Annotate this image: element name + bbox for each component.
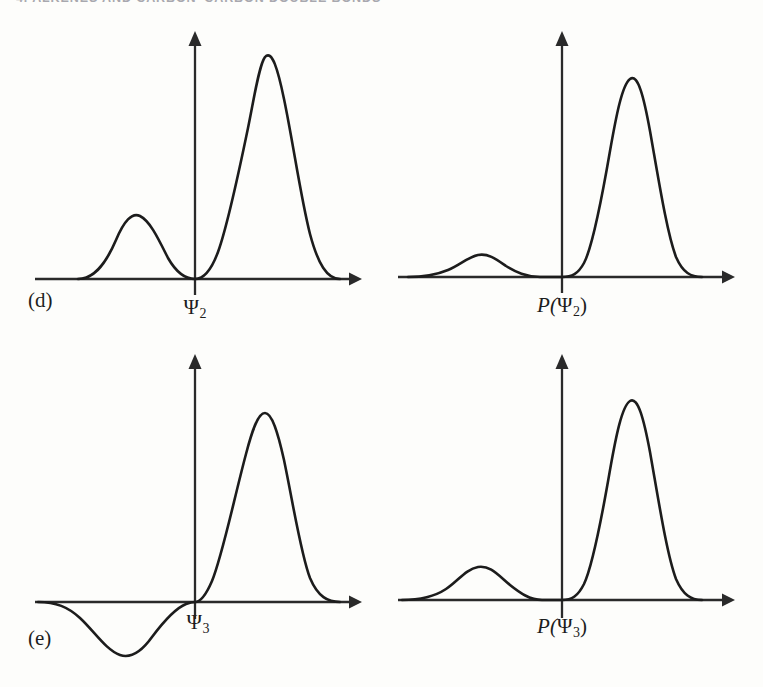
panel-psi3-label-subscript: 3 bbox=[202, 621, 210, 636]
panel-psi2-label-subscript: 2 bbox=[199, 306, 207, 321]
panel-p-psi2-label-subscript: 2 bbox=[572, 304, 580, 319]
panel-p-psi2-label-prefix: P( bbox=[537, 293, 557, 317]
panel-psi2: Ψ2 bbox=[0, 0, 380, 300]
x-axis-arrowhead bbox=[722, 271, 735, 284]
panel-p-psi2: P(Ψ2) bbox=[380, 0, 763, 300]
curve-p-psi2 bbox=[408, 78, 702, 277]
y-axis-arrowhead bbox=[189, 354, 202, 369]
y-axis-arrowhead bbox=[556, 31, 569, 46]
panel-p-psi3-label-prefix: P( bbox=[537, 614, 557, 638]
panel-psi2-label: Ψ2 bbox=[184, 295, 207, 322]
panel-p-psi2-label-symbol: Ψ bbox=[557, 293, 573, 317]
panel-p-psi3: P(Ψ3) bbox=[380, 323, 763, 687]
panel-p-psi2-plot bbox=[380, 0, 763, 300]
figure-wavefunction-plots: (d) Ψ2 P(Ψ2) (e) bbox=[0, 0, 763, 687]
y-axis-arrowhead bbox=[556, 354, 569, 369]
panel-psi3: Ψ3 bbox=[0, 323, 380, 687]
panel-psi2-label-symbol: Ψ bbox=[184, 295, 200, 319]
panel-p-psi3-label-subscript: 3 bbox=[572, 625, 580, 640]
x-axis-arrowhead bbox=[722, 594, 735, 607]
x-axis-arrowhead bbox=[349, 596, 362, 609]
panel-psi3-label: Ψ3 bbox=[187, 610, 210, 637]
panel-p-psi3-label: P(Ψ3) bbox=[537, 614, 587, 641]
y-axis-arrowhead bbox=[189, 31, 202, 46]
panel-psi3-label-symbol: Ψ bbox=[187, 610, 203, 634]
curve-psi2 bbox=[78, 55, 340, 279]
curve-p-psi3 bbox=[402, 400, 702, 600]
panel-p-psi2-label: P(Ψ2) bbox=[537, 293, 587, 320]
x-axis-arrowhead bbox=[349, 273, 362, 286]
panel-psi2-plot bbox=[0, 0, 380, 300]
panel-p-psi2-label-suffix: ) bbox=[580, 293, 587, 317]
panel-p-psi3-label-suffix: ) bbox=[580, 614, 587, 638]
panel-p-psi3-label-symbol: Ψ bbox=[557, 614, 573, 638]
